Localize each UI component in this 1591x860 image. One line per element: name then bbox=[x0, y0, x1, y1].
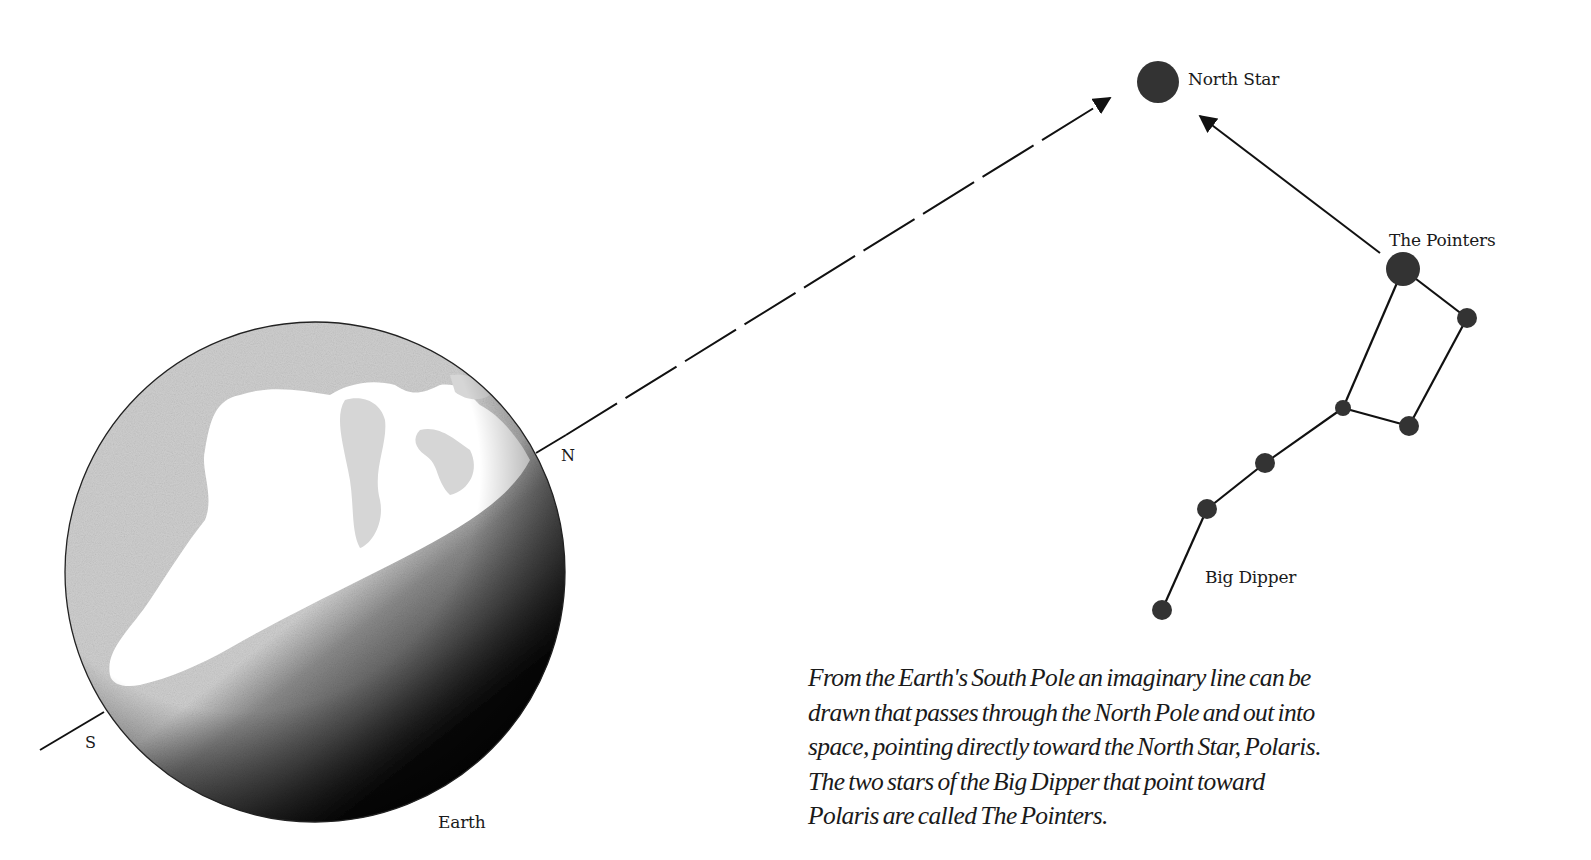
pointer-star-1 bbox=[1386, 252, 1420, 286]
axis-dashed-line bbox=[566, 98, 1110, 435]
dipper-star-handle-7 bbox=[1152, 600, 1172, 620]
big-dipper-lines bbox=[1162, 269, 1467, 610]
caption-line: drawn that passes through the North Pole… bbox=[808, 696, 1508, 731]
dipper-star-handle-5 bbox=[1255, 453, 1275, 473]
south-pole-label: S bbox=[85, 733, 96, 752]
pointer-star-2 bbox=[1457, 308, 1477, 328]
the-pointers-label: The Pointers bbox=[1389, 230, 1495, 250]
big-dipper-label: Big Dipper bbox=[1205, 567, 1296, 587]
caption-line: space, pointing directly toward the Nort… bbox=[808, 730, 1508, 765]
dipper-star-bowl-4 bbox=[1335, 400, 1351, 416]
north-pole-label: N bbox=[561, 446, 575, 465]
caption-text: From the Earth's South Pole an imaginary… bbox=[808, 661, 1508, 834]
north-star-label: North Star bbox=[1188, 69, 1279, 89]
dipper-star-bowl-3 bbox=[1399, 416, 1419, 436]
earth-label: Earth bbox=[438, 812, 485, 832]
caption-line: Polaris are called The Pointers. bbox=[808, 799, 1508, 834]
earth-globe bbox=[60, 320, 570, 825]
pointers-arrow bbox=[1200, 116, 1380, 253]
caption-line: From the Earth's South Pole an imaginary… bbox=[808, 661, 1508, 696]
big-dipper-stars bbox=[1152, 252, 1477, 620]
dipper-star-handle-6 bbox=[1197, 499, 1217, 519]
north-star bbox=[1137, 61, 1179, 103]
caption-line: The two stars of the Big Dipper that poi… bbox=[808, 765, 1508, 800]
